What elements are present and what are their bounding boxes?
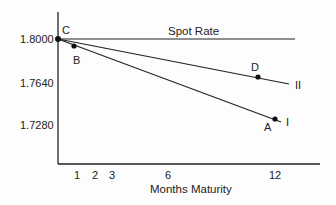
point-label-a: A: [264, 121, 272, 133]
point-c: [55, 36, 61, 42]
forward-rate-chart: 1.8000 1.7640 1.7280 1 2 3 6 12 Months M…: [0, 0, 336, 205]
x-tick-label: 3: [109, 169, 115, 181]
x-tick-label: 1: [74, 169, 80, 181]
chart-canvas: 1.8000 1.7640 1.7280 1 2 3 6 12 Months M…: [0, 0, 336, 205]
y-tick-label: 1.8000: [20, 33, 54, 45]
series-line-i: [58, 39, 281, 122]
y-tick-label: 1.7280: [20, 119, 54, 131]
y-tick-label: 1.7640: [20, 77, 54, 89]
point-d: [255, 74, 260, 79]
point-a: [272, 116, 277, 121]
spot-rate-label: Spot Rate: [168, 25, 219, 37]
x-axis-label: Months Maturity: [150, 183, 232, 195]
series-label-i: I: [286, 116, 289, 128]
point-b: [71, 43, 76, 48]
x-tick-label: 12: [269, 169, 281, 181]
point-label-b: B: [73, 54, 80, 66]
x-tick-label: 6: [165, 169, 171, 181]
point-label-c: C: [62, 24, 70, 36]
series-label-ii: II: [295, 79, 301, 91]
point-label-d: D: [251, 61, 259, 73]
x-tick-label: 2: [92, 169, 98, 181]
